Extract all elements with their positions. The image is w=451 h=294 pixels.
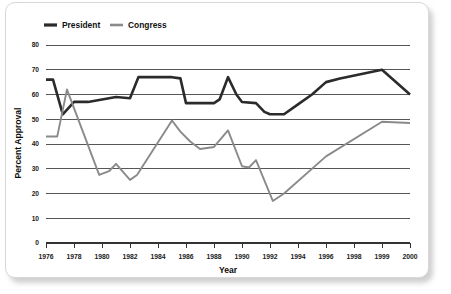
y-tick-label: 50 bbox=[32, 116, 40, 123]
y-tick-label: 60 bbox=[32, 91, 40, 98]
y-tick-label: 20 bbox=[32, 190, 40, 197]
y-tick-label: 30 bbox=[32, 165, 40, 172]
y-tick-label: 40 bbox=[32, 140, 40, 147]
x-tick-label: 1982 bbox=[122, 253, 137, 260]
y-tick-label: 0 bbox=[35, 239, 39, 246]
y-axis-title: Percent Approval bbox=[13, 108, 23, 179]
x-axis-tick-labels: 1976197819801982198419861988199019921994… bbox=[38, 253, 417, 260]
x-tick-label: 1999 bbox=[374, 253, 389, 260]
x-tick-label: 1996 bbox=[318, 253, 333, 260]
legend-label-congress: Congress bbox=[128, 20, 167, 30]
data-series bbox=[46, 70, 410, 201]
chart-card: PresidentCongress 01020304050607080 1976… bbox=[5, 2, 429, 278]
x-tick-label: 1994 bbox=[290, 253, 305, 260]
x-tick-label: 2000 bbox=[402, 253, 417, 260]
y-tick-label: 80 bbox=[32, 41, 40, 48]
y-axis-tick-labels: 01020304050607080 bbox=[32, 41, 40, 246]
series-line-president bbox=[46, 70, 410, 115]
x-tick-label: 1984 bbox=[150, 253, 165, 260]
y-tick-label: 10 bbox=[32, 215, 40, 222]
x-tick-label: 1992 bbox=[262, 253, 277, 260]
x-tick-label: 1998 bbox=[346, 253, 361, 260]
approval-line-chart: PresidentCongress 01020304050607080 1976… bbox=[6, 3, 430, 279]
y-tick-label: 70 bbox=[32, 66, 40, 73]
legend-label-president: President bbox=[62, 20, 100, 30]
series-line-congress bbox=[46, 90, 410, 201]
x-tick-label: 1990 bbox=[234, 253, 249, 260]
x-tick-label: 1976 bbox=[38, 253, 53, 260]
x-tick-label: 1980 bbox=[94, 253, 109, 260]
x-axis-ticks bbox=[46, 243, 410, 248]
chart-legend: PresidentCongress bbox=[44, 20, 167, 30]
x-axis-title: Year bbox=[219, 265, 238, 275]
x-tick-label: 1978 bbox=[66, 253, 81, 260]
x-tick-label: 1988 bbox=[206, 253, 221, 260]
x-tick-label: 1986 bbox=[178, 253, 193, 260]
